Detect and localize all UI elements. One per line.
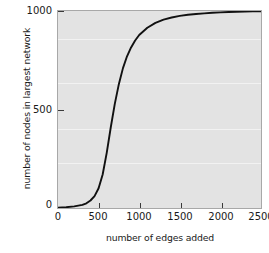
y-tick-500 xyxy=(58,110,64,111)
x-tick-1000 xyxy=(140,203,141,208)
x-tick-label-1000: 1000 xyxy=(119,211,159,222)
y-tick-label-500: 500 xyxy=(10,104,52,115)
data-curve xyxy=(58,11,261,208)
plot-area xyxy=(57,10,262,209)
y-tick-1000 xyxy=(58,11,64,12)
x-tick-label-0: 0 xyxy=(38,211,78,222)
y-tick-label-1000: 1000 xyxy=(10,5,52,16)
x-tick-500 xyxy=(99,203,100,208)
x-tick-label-1500: 1500 xyxy=(160,211,200,222)
x-axis-title: number of edges added xyxy=(57,232,263,243)
x-tick-1500 xyxy=(181,203,182,208)
x-tick-label-2000: 2000 xyxy=(201,211,241,222)
x-tick-label-500: 500 xyxy=(78,211,118,222)
x-tick-label-2500: 2500 xyxy=(241,211,269,222)
x-tick-2000 xyxy=(222,203,223,208)
y-tick-label-0: 0 xyxy=(10,199,52,210)
chart-figure: number of nodes in largest network 1000 … xyxy=(0,0,269,253)
